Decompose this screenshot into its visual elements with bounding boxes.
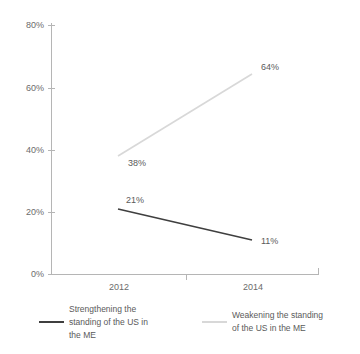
data-label-strengthening-2014: 11% (261, 236, 278, 246)
data-label-weakening-2012: 38% (128, 158, 146, 168)
x-axis-tick-label-2014: 2014 (243, 282, 263, 292)
legend-label-strengthening-line1: Strengthening the (69, 304, 136, 314)
data-label-strengthening-2012: 21% (126, 195, 144, 205)
legend-label-strengthening-line3: the ME (69, 330, 96, 340)
y-axis-tick-label-40: 40% (26, 145, 44, 155)
chart-canvas: 80% 60% 40% 20% 0% 2012 2014 38% 64% 21%… (0, 0, 360, 354)
legend-label-strengthening-line2: standing of the US in (69, 317, 148, 327)
y-axis-tick-label-80: 80% (26, 20, 44, 30)
y-axis-tick-label-0: 0% (31, 269, 44, 279)
data-label-weakening-2014: 64% (261, 62, 279, 72)
legend-label-weakening-line2: of the US in the ME (232, 323, 306, 333)
x-axis-tick-label-2012: 2012 (109, 282, 129, 292)
y-axis-tick-label-60: 60% (26, 83, 44, 93)
series-line-strengthening (118, 209, 252, 240)
series-line-weakening (118, 74, 252, 156)
slope-chart: 80% 60% 40% 20% 0% 2012 2014 38% 64% 21%… (0, 0, 360, 354)
legend-label-weakening-line1: Weakening the standing (232, 310, 323, 320)
y-axis-tick-label-20: 20% (26, 207, 44, 217)
